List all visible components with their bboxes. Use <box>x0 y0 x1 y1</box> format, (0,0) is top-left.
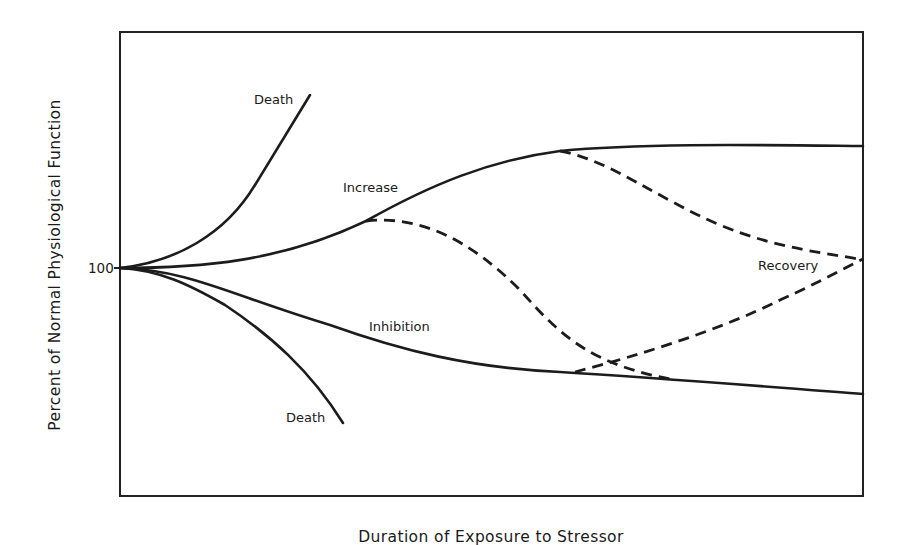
y-axis-title: Percent of Normal Physiological Function <box>46 99 64 430</box>
stress-response-diagram: 100 Death Increase Inhibition Death Reco… <box>0 0 915 545</box>
label-death-lower: Death <box>286 410 325 425</box>
curve-increase <box>120 145 863 268</box>
x-axis-title: Duration of Exposure to Stressor <box>358 528 624 545</box>
label-death-upper: Death <box>254 92 293 107</box>
y-tick-label-100: 100 <box>88 260 114 276</box>
label-recovery: Recovery <box>758 258 819 273</box>
curve-inhibition-recovery <box>575 259 863 372</box>
label-increase: Increase <box>343 180 398 195</box>
curve-inhibition <box>120 268 863 394</box>
curve-increase-recovery <box>560 151 863 260</box>
curve-death-upper <box>120 95 310 268</box>
label-inhibition: Inhibition <box>369 319 430 334</box>
